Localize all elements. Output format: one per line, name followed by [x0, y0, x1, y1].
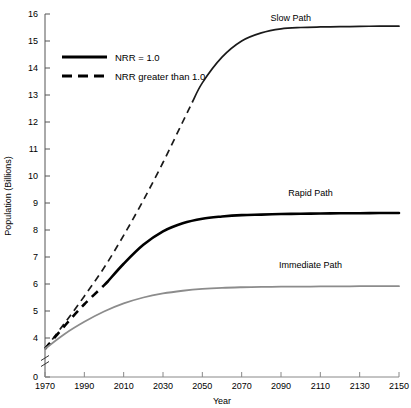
- x-tick-label: 2090: [271, 381, 291, 391]
- population-projection-chart: 045678910111213141516 197019902010203020…: [0, 0, 411, 408]
- x-axis-title: Year: [213, 396, 231, 406]
- legend-label: NRR greater than 1.0: [115, 71, 205, 82]
- x-tick-label: 2050: [192, 381, 212, 391]
- y-tick-label: 11: [29, 144, 38, 154]
- series-annotations: Slow PathRapid PathImmediate Path: [271, 13, 342, 270]
- series-dashed-slow-path: [45, 102, 193, 349]
- x-tick-label: 1990: [74, 381, 94, 391]
- y-tick-label: 10: [28, 171, 38, 181]
- x-tick-label: 2130: [350, 381, 370, 391]
- y-tick-label: 16: [28, 9, 38, 19]
- series-annotation: Rapid Path: [288, 188, 333, 198]
- y-axis-ticks: [45, 14, 50, 377]
- series-solid-rapid-path: [108, 213, 399, 281]
- y-tick-label: 14: [28, 63, 38, 73]
- y-tick-label: 8: [33, 225, 38, 235]
- y-tick-label: 5: [33, 306, 38, 316]
- y-axis-title: Population (Billions): [3, 156, 13, 236]
- x-axis-ticks: [45, 372, 399, 377]
- series-annotation: Slow Path: [271, 13, 312, 23]
- legend-label: NRR = 1.0: [115, 52, 160, 63]
- y-axis-tick-labels: 045678910111213141516: [28, 9, 38, 382]
- x-tick-label: 2150: [389, 381, 409, 391]
- x-tick-label: 2110: [311, 381, 330, 391]
- x-axis-tick-labels: 1970199020102030205020702090211021302150: [35, 381, 409, 391]
- y-axis-group: 045678910111213141516: [28, 9, 50, 382]
- x-axis-group: 1970199020102030205020702090211021302150: [35, 372, 409, 391]
- y-tick-label: 7: [33, 252, 38, 262]
- chart-legend: NRR = 1.0NRR greater than 1.0: [62, 52, 205, 82]
- y-tick-label: 4: [33, 333, 38, 343]
- y-tick-label: 9: [33, 198, 38, 208]
- y-tick-label: 12: [28, 117, 38, 127]
- x-tick-label: 2070: [232, 381, 252, 391]
- y-tick-label: 13: [28, 90, 38, 100]
- series-annotation: Immediate Path: [279, 260, 342, 270]
- series-solid-slow-path: [193, 26, 400, 102]
- y-tick-label: 15: [28, 36, 38, 46]
- chart-canvas: 045678910111213141516 197019902010203020…: [0, 0, 411, 408]
- x-tick-label: 1970: [35, 381, 55, 391]
- x-tick-label: 2010: [114, 381, 134, 391]
- y-tick-label: 6: [33, 279, 38, 289]
- series-line-immediate-path: [45, 286, 399, 349]
- x-tick-label: 2030: [153, 381, 173, 391]
